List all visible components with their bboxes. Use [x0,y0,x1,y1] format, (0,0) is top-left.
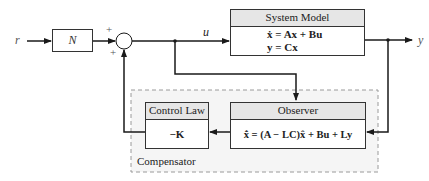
control-law-block: Control Law −K [145,102,209,149]
control-law-header: Control Law [146,103,208,120]
input-signal-label: r [15,33,20,48]
gain-block-n: N [52,29,93,52]
compensator-label: Compensator [137,155,196,167]
sum-sign-top: + [106,23,112,35]
system-model-output-eq: y = Cx [267,41,364,54]
system-model-state-eq: ẋ = Ax + Bu [267,28,364,41]
system-model-block: System Model ẋ = Ax + Bu y = Cx [230,9,365,56]
system-model-header: System Model [231,10,364,27]
control-signal-label: u [203,25,209,40]
gain-block-label: N [53,30,92,51]
summing-junction [116,33,132,49]
control-law-gain: −K [146,120,208,149]
sum-sign-bottom: + [110,46,116,58]
observer-header: Observer [231,103,365,120]
output-signal-label: y [418,33,423,48]
observer-block: Observer x̂̇ = (A − LC)x̂ + Bu + Ly [230,102,366,149]
observer-equation: x̂̇ = (A − LC)x̂ + Bu + Ly [231,120,365,149]
